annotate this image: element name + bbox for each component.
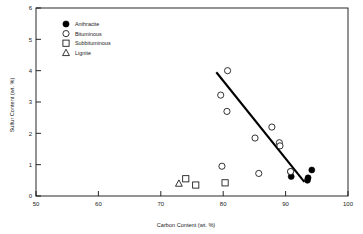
chart-background: [0, 0, 363, 234]
data-point: [252, 135, 258, 141]
scatter-chart-figure: 5060708090100 0123456 Carbon Content (wt…: [0, 0, 363, 234]
data-point: [222, 180, 228, 186]
data-point: [256, 170, 262, 176]
legend-marker-anthracite: [63, 21, 69, 27]
x-tick-label: 70: [157, 201, 164, 207]
data-point: [224, 108, 230, 114]
data-point: [193, 182, 199, 188]
data-point: [219, 163, 225, 169]
x-axis-title: Carbon Content (wt. %): [157, 222, 216, 228]
legend-marker-subbituminous: [63, 40, 69, 46]
y-axis-title: Sulfur Content (wt. %): [9, 78, 15, 133]
x-tick-label: 90: [282, 201, 289, 207]
chart-canvas: 5060708090100 0123456 Carbon Content (wt…: [0, 0, 363, 234]
x-tick-label: 50: [33, 201, 40, 207]
legend-label-lignite: Lignite: [75, 50, 91, 56]
data-point: [287, 168, 293, 174]
data-point: [224, 68, 230, 74]
legend-label-subbituminous: Subbituminous: [75, 40, 111, 46]
x-tick-label: 80: [220, 201, 227, 207]
data-point: [304, 177, 310, 183]
legend-label-bituminous: Bituminous: [75, 31, 102, 37]
x-tick-label: 100: [343, 201, 354, 207]
legend-marker-bituminous: [63, 30, 69, 36]
x-tick-label: 60: [95, 201, 102, 207]
legend-label-anthracite: Anthracite: [75, 21, 99, 27]
data-point: [309, 167, 315, 173]
data-point: [218, 92, 224, 98]
data-point: [277, 143, 283, 149]
data-point: [183, 176, 189, 182]
data-point: [269, 124, 275, 130]
